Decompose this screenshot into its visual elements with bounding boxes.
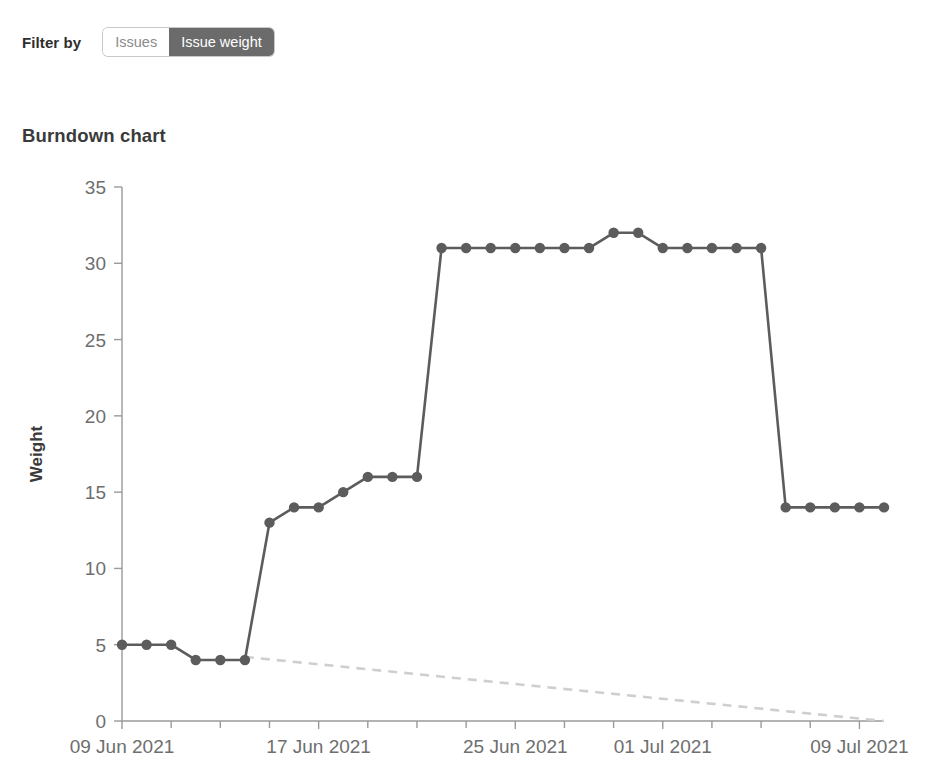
x-tick-label-3: 01 Jul 2021: [614, 736, 712, 757]
data-point-marker[interactable]: [363, 472, 373, 482]
x-tick-label-4: 09 Jul 2021: [810, 736, 908, 757]
y-tick-label-30: 30: [85, 253, 106, 274]
y-axis-title: Weight: [27, 425, 46, 482]
y-tick-label-5: 5: [95, 635, 106, 656]
data-point-marker[interactable]: [461, 243, 471, 253]
axis-lines: [122, 187, 884, 721]
data-point-marker[interactable]: [338, 487, 348, 497]
filter-toggle-issues[interactable]: Issues: [103, 28, 169, 56]
filter-by-label: Filter by: [22, 34, 81, 51]
data-point-marker[interactable]: [731, 243, 741, 253]
data-point-marker[interactable]: [756, 243, 766, 253]
burndown-chart: Weight 05101520253035 09 Jun 202117 Jun …: [0, 165, 932, 769]
y-axis-ticks: 05101520253035: [85, 177, 122, 732]
filter-toggle-issue-weight[interactable]: Issue weight: [169, 28, 274, 56]
data-point-marker[interactable]: [559, 243, 569, 253]
axis-title-group: Weight: [27, 425, 46, 482]
data-point-marker[interactable]: [313, 502, 323, 512]
data-point-marker[interactable]: [510, 243, 520, 253]
data-point-marker[interactable]: [608, 228, 618, 238]
data-point-marker[interactable]: [486, 243, 496, 253]
data-point-marker[interactable]: [117, 640, 127, 650]
data-point-marker[interactable]: [830, 502, 840, 512]
data-point-marker[interactable]: [215, 655, 225, 665]
page-title: Burndown chart: [22, 125, 166, 147]
data-point-marker[interactable]: [633, 228, 643, 238]
filter-toggle-group[interactable]: Issues Issue weight: [103, 28, 274, 56]
data-point-marker[interactable]: [682, 243, 692, 253]
data-point-marker[interactable]: [854, 502, 864, 512]
data-point-marker[interactable]: [436, 243, 446, 253]
data-point-marker[interactable]: [191, 655, 201, 665]
data-point-marker[interactable]: [387, 472, 397, 482]
data-point-marker[interactable]: [412, 472, 422, 482]
y-tick-label-15: 15: [85, 482, 106, 503]
x-tick-label-1: 17 Jun 2021: [266, 736, 371, 757]
data-point-marker[interactable]: [166, 640, 176, 650]
y-tick-label-20: 20: [85, 406, 106, 427]
data-point-marker[interactable]: [879, 502, 889, 512]
x-tick-label-0: 09 Jun 2021: [70, 736, 175, 757]
y-tick-label-35: 35: [85, 177, 106, 198]
x-axis-ticks: 09 Jun 202117 Jun 202125 Jun 202101 Jul …: [70, 721, 909, 757]
y-tick-label-0: 0: [95, 711, 106, 732]
data-point-marker[interactable]: [805, 502, 815, 512]
ideal-burndown-line: [245, 657, 884, 721]
data-point-marker[interactable]: [264, 517, 274, 527]
data-point-marker[interactable]: [535, 243, 545, 253]
data-point-marker[interactable]: [240, 655, 250, 665]
burndown-chart-svg: Weight 05101520253035 09 Jun 202117 Jun …: [0, 165, 932, 769]
y-tick-label-25: 25: [85, 330, 106, 351]
filter-bar: Filter by Issues Issue weight: [22, 28, 274, 56]
data-point-marker[interactable]: [780, 502, 790, 512]
data-point-marker[interactable]: [584, 243, 594, 253]
data-point-marker[interactable]: [289, 502, 299, 512]
data-point-markers: [117, 228, 889, 666]
y-tick-label-10: 10: [85, 558, 106, 579]
data-point-marker[interactable]: [141, 640, 151, 650]
actual-weight-line: [122, 233, 884, 660]
data-point-marker[interactable]: [658, 243, 668, 253]
x-tick-label-2: 25 Jun 2021: [463, 736, 568, 757]
data-point-marker[interactable]: [707, 243, 717, 253]
